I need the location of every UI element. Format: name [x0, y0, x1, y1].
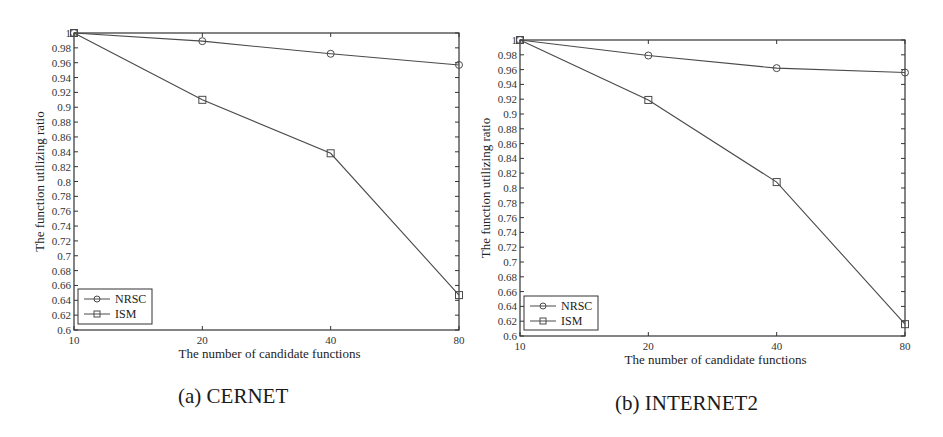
y-tick-label: 0.88: [52, 116, 72, 128]
y-tick-label: 0.74: [498, 226, 518, 238]
y-tick-label: 0.98: [498, 49, 518, 61]
legend-label: NRSC: [561, 299, 592, 313]
legend-label: NRSC: [115, 292, 146, 306]
legend: NRSCISM: [524, 296, 598, 330]
series-ism: [71, 30, 463, 299]
y-tick-label: 0.94: [52, 72, 72, 84]
x-tick-label: 10: [515, 340, 527, 352]
y-axis-title: The function utilizing ratio: [32, 111, 47, 251]
plot-area: [520, 40, 905, 336]
y-tick-label: 0.9: [57, 101, 71, 113]
y-tick-label: 0.98: [52, 42, 72, 54]
x-axis-title: The number of candidate functions: [625, 352, 807, 367]
x-tick-label: 20: [197, 334, 209, 346]
y-tick-label: 0.62: [52, 309, 71, 321]
x-tick-label: 20: [643, 340, 655, 352]
x-tick-label: 10: [69, 334, 81, 346]
y-tick-label: 0.82: [52, 161, 71, 173]
y-tick-label: 0.8: [503, 182, 517, 194]
y-tick-label: 0.66: [498, 286, 518, 298]
legend: NRSCISM: [78, 289, 152, 324]
y-tick-label: 0.84: [52, 146, 72, 158]
series-ism: [517, 37, 909, 328]
plot-area: [74, 33, 459, 330]
series-nrsc: [517, 37, 909, 77]
y-tick-label: 0.94: [498, 78, 518, 90]
y-tick-label: 0.74: [52, 220, 72, 232]
caption-internet2: (b) INTERNET2: [615, 391, 758, 416]
y-tick-label: 0.7: [503, 256, 517, 268]
x-tick-label: 40: [771, 340, 783, 352]
chart-internet2: 0.60.620.640.660.680.70.720.740.760.780.…: [478, 34, 911, 367]
series-nrsc: [71, 30, 463, 69]
x-tick-label: 80: [454, 334, 466, 346]
y-tick-label: 0.84: [498, 152, 518, 164]
y-tick-label: 0.68: [498, 271, 518, 283]
y-tick-label: 0.72: [498, 241, 517, 253]
y-tick-label: 0.96: [498, 64, 518, 76]
y-tick-label: 0.78: [498, 197, 518, 209]
y-tick-label: 0.88: [498, 123, 518, 135]
legend-label: ISM: [561, 314, 583, 328]
y-tick-label: 0.64: [52, 294, 72, 306]
y-tick-label: 0.7: [57, 250, 71, 262]
y-tick-label: 0.62: [498, 315, 517, 327]
caption-cernet: (a) CERNET: [178, 384, 288, 409]
figure-canvas: 0.60.620.640.660.680.70.720.740.760.780.…: [0, 0, 943, 437]
y-tick-label: 0.86: [52, 131, 72, 143]
x-tick-label: 80: [900, 340, 912, 352]
y-tick-label: 0.68: [52, 265, 72, 277]
y-tick-label: 0.72: [52, 235, 71, 247]
y-tick-label: 0.9: [503, 108, 517, 120]
x-axis-title: The number of candidate functions: [179, 346, 361, 361]
y-tick-label: 0.76: [52, 205, 72, 217]
y-tick-label: 0.86: [498, 138, 518, 150]
y-tick-label: 0.92: [52, 86, 71, 98]
y-tick-label: 0.8: [57, 176, 71, 188]
y-tick-label: 0.64: [498, 300, 518, 312]
x-tick-label: 40: [325, 334, 337, 346]
y-tick-label: 0.96: [52, 57, 72, 69]
chart-cernet: 0.60.620.640.660.680.70.720.740.760.780.…: [32, 27, 465, 361]
y-tick-label: 0.66: [52, 279, 72, 291]
y-tick-label: 0.76: [498, 212, 518, 224]
y-tick-label: 0.92: [498, 93, 517, 105]
y-tick-label: 0.78: [52, 190, 72, 202]
legend-label: ISM: [115, 307, 137, 321]
y-axis-title: The function utilizing ratio: [478, 118, 493, 258]
y-tick-label: 0.82: [498, 167, 517, 179]
